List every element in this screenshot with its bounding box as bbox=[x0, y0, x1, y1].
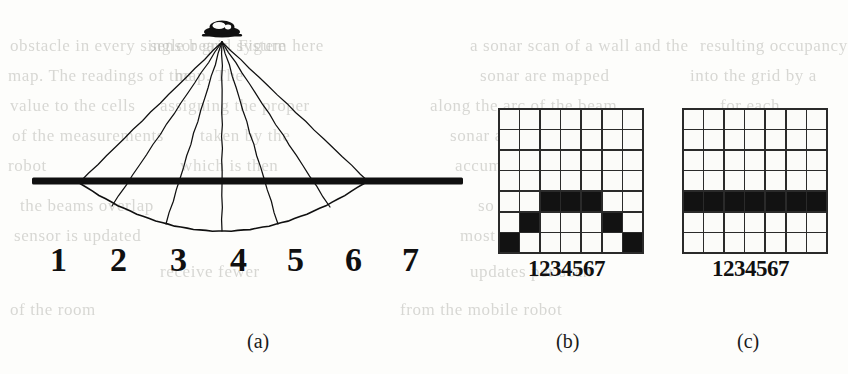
grid-b-cells bbox=[498, 108, 644, 254]
cell-r3-c5 bbox=[582, 151, 601, 170]
cell-r2-c6 bbox=[603, 130, 622, 149]
showthrough-line: of the room bbox=[10, 300, 96, 320]
beam-4 bbox=[222, 42, 223, 231]
cell-r3-c2 bbox=[704, 151, 723, 170]
cell-r3-c4 bbox=[745, 151, 764, 170]
cell-r2-c4 bbox=[561, 130, 580, 149]
scale-label-7: 7 bbox=[402, 243, 419, 277]
cell-r3-c7 bbox=[807, 151, 826, 170]
cell-r5-c4 bbox=[745, 192, 764, 211]
cell-r4-c6 bbox=[603, 171, 622, 190]
showthrough-line: resulting occupancy bbox=[700, 36, 848, 56]
cell-r6-c7 bbox=[623, 213, 642, 232]
cell-r5-c5 bbox=[766, 192, 785, 211]
cell-r2-c2 bbox=[520, 130, 539, 149]
cell-r7-c1 bbox=[684, 233, 703, 252]
cell-r4-c7 bbox=[807, 171, 826, 190]
cell-r1-c2 bbox=[704, 110, 723, 129]
beam-line-group bbox=[80, 42, 370, 231]
scale-label-6: 6 bbox=[345, 243, 362, 277]
cell-r1-c2 bbox=[520, 110, 539, 129]
cell-r3-c6 bbox=[787, 151, 806, 170]
showthrough-line: into the grid by a bbox=[690, 66, 817, 86]
panel-c-occupancy-grid: 1234567 bbox=[682, 108, 828, 281]
cell-r6-c1 bbox=[500, 213, 519, 232]
cell-r4-c4 bbox=[561, 171, 580, 190]
cell-r1-c5 bbox=[766, 110, 785, 129]
caption-c: (c) bbox=[737, 330, 759, 353]
cell-r4-c5 bbox=[766, 171, 785, 190]
cell-r4-c1 bbox=[500, 171, 519, 190]
cell-r1-c6 bbox=[787, 110, 806, 129]
cell-r6-c4 bbox=[745, 213, 764, 232]
cell-r5-c3 bbox=[725, 192, 744, 211]
cell-r3-c2 bbox=[520, 151, 539, 170]
cell-r6-c3 bbox=[541, 213, 560, 232]
cell-r3-c4 bbox=[561, 151, 580, 170]
cell-r3-c3 bbox=[541, 151, 560, 170]
cell-r3-c1 bbox=[684, 151, 703, 170]
sonar-occupancy-figure: obstacle in every single beam. Figuresen… bbox=[0, 0, 848, 374]
cell-r2-c1 bbox=[684, 130, 703, 149]
cell-r5-c4 bbox=[561, 192, 580, 211]
cell-r1-c1 bbox=[684, 110, 703, 129]
cell-r3-c5 bbox=[766, 151, 785, 170]
grid-c-cells bbox=[682, 108, 828, 254]
cell-r5-c1 bbox=[684, 192, 703, 211]
cell-r7-c4 bbox=[561, 233, 580, 252]
cell-r3-c6 bbox=[603, 151, 622, 170]
cell-r7-c6 bbox=[603, 233, 622, 252]
sonar-transducer-icon bbox=[202, 21, 242, 38]
cell-r7-c7 bbox=[623, 233, 642, 252]
cell-r2-c3 bbox=[725, 130, 744, 149]
cell-r6-c5 bbox=[766, 213, 785, 232]
showthrough-line: from the mobile robot bbox=[400, 300, 562, 320]
cell-r6-c4 bbox=[561, 213, 580, 232]
cell-r2-c2 bbox=[704, 130, 723, 149]
cell-r2-c6 bbox=[787, 130, 806, 149]
cell-r4-c7 bbox=[623, 171, 642, 190]
cell-r6-c2 bbox=[704, 213, 723, 232]
panel-a-beam-diagram: 1234567 bbox=[0, 0, 480, 300]
cell-r3-c3 bbox=[725, 151, 744, 170]
cell-r7-c2 bbox=[704, 233, 723, 252]
cell-r7-c3 bbox=[725, 233, 744, 252]
cell-r1-c3 bbox=[725, 110, 744, 129]
grid-c-column-labels: 1234567 bbox=[682, 257, 819, 281]
scale-label-2: 2 bbox=[110, 243, 127, 277]
cell-r1-c7 bbox=[807, 110, 826, 129]
cell-r4-c2 bbox=[520, 171, 539, 190]
cell-r5-c2 bbox=[520, 192, 539, 211]
cell-r7-c4 bbox=[745, 233, 764, 252]
cell-r1-c4 bbox=[561, 110, 580, 129]
cell-r4-c5 bbox=[582, 171, 601, 190]
cell-r6-c6 bbox=[787, 213, 806, 232]
cell-r6-c7 bbox=[807, 213, 826, 232]
cell-r3-c1 bbox=[500, 151, 519, 170]
cell-r1-c7 bbox=[623, 110, 642, 129]
cell-r6-c1 bbox=[684, 213, 703, 232]
showthrough-line: sonar are mapped bbox=[480, 66, 610, 86]
showthrough-line: a sonar scan of a wall and the bbox=[470, 36, 689, 56]
panel-a-scale-labels: 1234567 bbox=[34, 243, 434, 287]
cell-r7-c5 bbox=[582, 233, 601, 252]
grid-b-column-labels: 1234567 bbox=[498, 257, 635, 281]
cell-r1-c4 bbox=[745, 110, 764, 129]
cell-r2-c7 bbox=[623, 130, 642, 149]
scale-label-1: 1 bbox=[50, 243, 67, 277]
cell-r5-c3 bbox=[541, 192, 560, 211]
cell-r5-c1 bbox=[500, 192, 519, 211]
cell-r7-c2 bbox=[520, 233, 539, 252]
cell-r7-c5 bbox=[766, 233, 785, 252]
cell-r2-c7 bbox=[807, 130, 826, 149]
cell-r4-c3 bbox=[541, 171, 560, 190]
cell-r4-c2 bbox=[704, 171, 723, 190]
cell-r1-c3 bbox=[541, 110, 560, 129]
cell-r2-c5 bbox=[582, 130, 601, 149]
cell-r7-c3 bbox=[541, 233, 560, 252]
range-arc bbox=[80, 179, 370, 231]
cell-r1-c6 bbox=[603, 110, 622, 129]
cell-r5-c7 bbox=[807, 192, 826, 211]
panel-b-occupancy-grid: 1234567 bbox=[498, 108, 644, 281]
cell-r4-c6 bbox=[787, 171, 806, 190]
